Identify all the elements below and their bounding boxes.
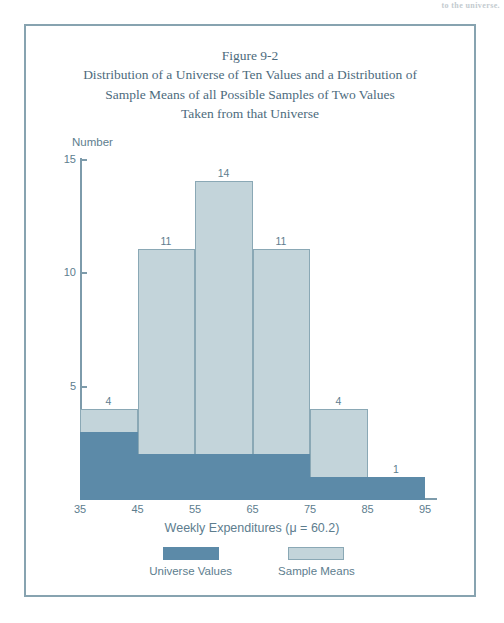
legend-item-sample-means: Sample Means: [278, 547, 355, 577]
bar-universe-values-75-85: [310, 477, 368, 500]
x-tick-label-95: 95: [410, 503, 440, 515]
bar-universe-values-45-55: [138, 454, 196, 500]
bar-value-label-45-55: 11: [151, 235, 181, 247]
bar-universe-values-85-95: [368, 477, 426, 500]
legend-label-sample-means: Sample Means: [278, 565, 355, 577]
y-tick-mark-5: [82, 386, 87, 388]
y-tick-mark-10: [82, 272, 87, 274]
chart-legend: Universe Values Sample Means: [26, 547, 478, 577]
x-tick-label-75: 75: [295, 503, 325, 515]
bar-universe-values-35-45: [80, 432, 138, 500]
x-tick-label-35: 35: [65, 503, 95, 515]
x-tick-label-85: 85: [353, 503, 383, 515]
x-tick-label-65: 65: [238, 503, 268, 515]
x-axis-title: Weekly Expenditures (μ = 60.2): [26, 521, 478, 535]
chart-plot-area: Number 15 10 5 4 11 14 11 4 1 35: [26, 26, 478, 599]
bar-value-label-65-75: 11: [266, 235, 296, 247]
legend-label-universe-values: Universe Values: [149, 565, 232, 577]
x-tick-label-45: 45: [123, 503, 153, 515]
bar-value-label-85-95: 1: [381, 463, 411, 475]
y-tick-label-15: 15: [54, 153, 76, 165]
bar-universe-values-65-75: [253, 454, 311, 500]
bar-value-label-75-85: 4: [324, 395, 354, 407]
page-bleed-text: to the universe.: [300, 1, 500, 13]
legend-swatch-sample-means: [288, 547, 344, 560]
y-axis-title: Number: [72, 136, 113, 148]
y-tick-label-10: 10: [54, 266, 76, 278]
figure-frame: Figure 9-2 Distribution of a Universe of…: [24, 24, 476, 597]
y-tick-label-5: 5: [54, 380, 76, 392]
bar-value-label-35-45: 4: [94, 395, 124, 407]
bar-universe-values-55-65: [195, 454, 253, 500]
bar-sample-means-55-65: [195, 181, 253, 500]
legend-item-universe-values: Universe Values: [149, 547, 232, 577]
x-tick-label-55: 55: [180, 503, 210, 515]
bar-value-label-55-65: 14: [209, 167, 239, 179]
legend-swatch-universe-values: [163, 547, 219, 560]
y-tick-mark-15: [82, 159, 87, 161]
